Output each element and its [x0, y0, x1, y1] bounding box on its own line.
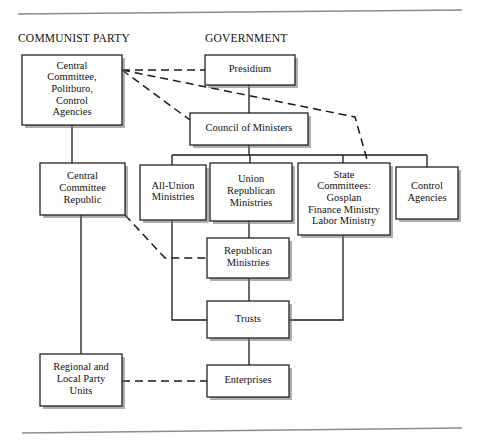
connector-cc-to-council	[122, 70, 190, 120]
box-label-line: Agencies	[407, 192, 446, 203]
box-label-line: Republican	[224, 246, 273, 257]
box-state-committees: StateCommittees:GosplanFinance MinistryL…	[298, 163, 393, 238]
box-label-line: Finance Ministry	[308, 204, 381, 215]
box-label-line: Union	[238, 174, 265, 185]
box-label-republican-ministries: RepublicanMinistries	[224, 246, 273, 269]
diagram-boxes: CentralCommittee,Politburo,ControlAgenci…	[22, 55, 461, 409]
box-label-line: Trusts	[235, 313, 261, 324]
box-all-union-ministries: All-UnionMinistries	[140, 165, 209, 223]
box-label-line: State	[334, 169, 355, 180]
box-label-line: All-Union	[151, 180, 195, 191]
box-label-line: Presidium	[229, 63, 272, 74]
box-label-line: Central	[67, 171, 98, 182]
box-label-line: Republican	[227, 185, 276, 196]
box-republican-ministries: RepublicanMinistries	[207, 238, 292, 281]
connector-statecommittees-to-trusts	[289, 235, 343, 320]
box-label-line: Enterprises	[224, 374, 271, 385]
box-label-all-union-ministries: All-UnionMinistries	[151, 180, 195, 203]
top-rule	[18, 10, 462, 14]
box-presidium: Presidium	[205, 55, 298, 88]
connector-allunion-to-trusts	[172, 220, 207, 320]
box-label-line: Ministries	[152, 192, 195, 203]
box-label-line: Control	[56, 95, 88, 106]
box-regional-local-party-units: Regional andLocal PartyUnits	[40, 354, 125, 409]
box-label-line: Labor Ministry	[312, 216, 377, 227]
box-control-agencies: ControlAgencies	[396, 167, 461, 222]
box-label-presidium: Presidium	[229, 63, 272, 74]
org-chart-diagram: CentralCommittee,Politburo,ControlAgenci…	[0, 0, 478, 446]
box-label-control-agencies: ControlAgencies	[407, 181, 446, 204]
box-label-council-of-ministers: Council of Ministers	[206, 122, 293, 133]
box-label-line: Agencies	[52, 107, 91, 118]
box-union-republican-ministries: UnionRepublicanMinistries	[210, 163, 295, 224]
box-label-line: Politburo,	[51, 83, 93, 94]
box-council-of-ministers: Council of Ministers	[190, 113, 311, 148]
box-central-committee-politburo: CentralCommittee,Politburo,ControlAgenci…	[22, 55, 125, 128]
box-label-line: Units	[70, 385, 93, 396]
heading-government: GOVERNMENT	[205, 32, 288, 44]
box-label-enterprises: Enterprises	[224, 374, 271, 385]
box-label-line: Local Party	[57, 373, 106, 384]
diagram-canvas: CentralCommittee,Politburo,ControlAgenci…	[0, 0, 478, 446]
box-label-line: Ministries	[230, 197, 273, 208]
box-label-line: Gosplan	[327, 192, 363, 203]
box-label-line: Central	[57, 60, 88, 71]
box-label-line: Committee,	[47, 72, 96, 83]
heading-communist-party: COMMUNIST PARTY	[18, 32, 130, 44]
bottom-rule	[22, 428, 462, 433]
box-label-line: Control	[411, 181, 443, 192]
box-central-committee-republic: CentralCommitteeRepublic	[40, 163, 128, 218]
box-label-line: Regional and	[53, 362, 109, 373]
box-label-line: Council of Ministers	[206, 122, 293, 133]
column-headings: COMMUNIST PARTYGOVERNMENT	[18, 32, 288, 44]
box-label-line: Ministries	[227, 257, 270, 268]
box-trusts: Trusts	[207, 301, 292, 341]
box-label-line: Committee	[59, 182, 106, 193]
box-label-line: Committees:	[317, 181, 371, 192]
box-label-line: Republic	[64, 194, 102, 205]
box-label-trusts: Trusts	[235, 313, 261, 324]
box-enterprises: Enterprises	[207, 365, 292, 400]
